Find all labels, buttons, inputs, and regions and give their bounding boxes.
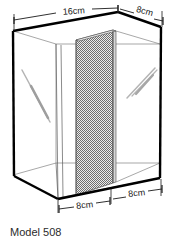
dimension-label-8cm-top: 8cm bbox=[135, 4, 154, 18]
dimension-label-8cm-bottom-left: 8cm bbox=[76, 199, 94, 211]
edge-left-vertical bbox=[13, 31, 14, 176]
outer-box bbox=[13, 12, 161, 199]
glass-highlight-left bbox=[22, 70, 50, 122]
pillar-left-outer bbox=[61, 45, 63, 197]
dimension-label-8cm-bottom-right: 8cm bbox=[128, 187, 146, 199]
box-right-inner-lines bbox=[116, 31, 160, 182]
divider-panel bbox=[76, 30, 116, 195]
edge-top-left-diagonal bbox=[13, 31, 56, 44]
dim-line-8cm-br-b bbox=[148, 189, 162, 191]
box-front-left-pillar bbox=[56, 44, 63, 198]
edge-bottom-left bbox=[14, 176, 58, 199]
edge-right-vertical bbox=[160, 27, 161, 178]
dimension-label-16cm: 16cm bbox=[62, 5, 85, 17]
inner-right-top-diagonal bbox=[116, 31, 160, 44]
dim-line-8cm-bl-a bbox=[59, 207, 74, 209]
edge-bottom-left-diagonal bbox=[13, 163, 56, 175]
highlight-right-stroke-3 bbox=[136, 75, 153, 94]
dim-line-8cm-bl-b bbox=[96, 201, 110, 203]
figure-root: 16cm 8cm 8cm 8cm Mode bbox=[0, 0, 174, 243]
divider-panel-face bbox=[76, 30, 113, 195]
highlight-right-stroke-1 bbox=[127, 68, 155, 98]
divider-panel-edge bbox=[113, 30, 116, 183]
glass-highlight-right bbox=[127, 68, 157, 98]
tank-diagram: 16cm 8cm 8cm 8cm Mode bbox=[0, 0, 174, 243]
dim-line-16cm-a bbox=[14, 13, 56, 20]
dim-line-16cm-b bbox=[92, 8, 118, 9]
highlight-left-stroke-2 bbox=[31, 86, 48, 118]
dim-line-8cm-br-a bbox=[113, 197, 126, 199]
figure-caption: Model 508 bbox=[10, 226, 61, 238]
